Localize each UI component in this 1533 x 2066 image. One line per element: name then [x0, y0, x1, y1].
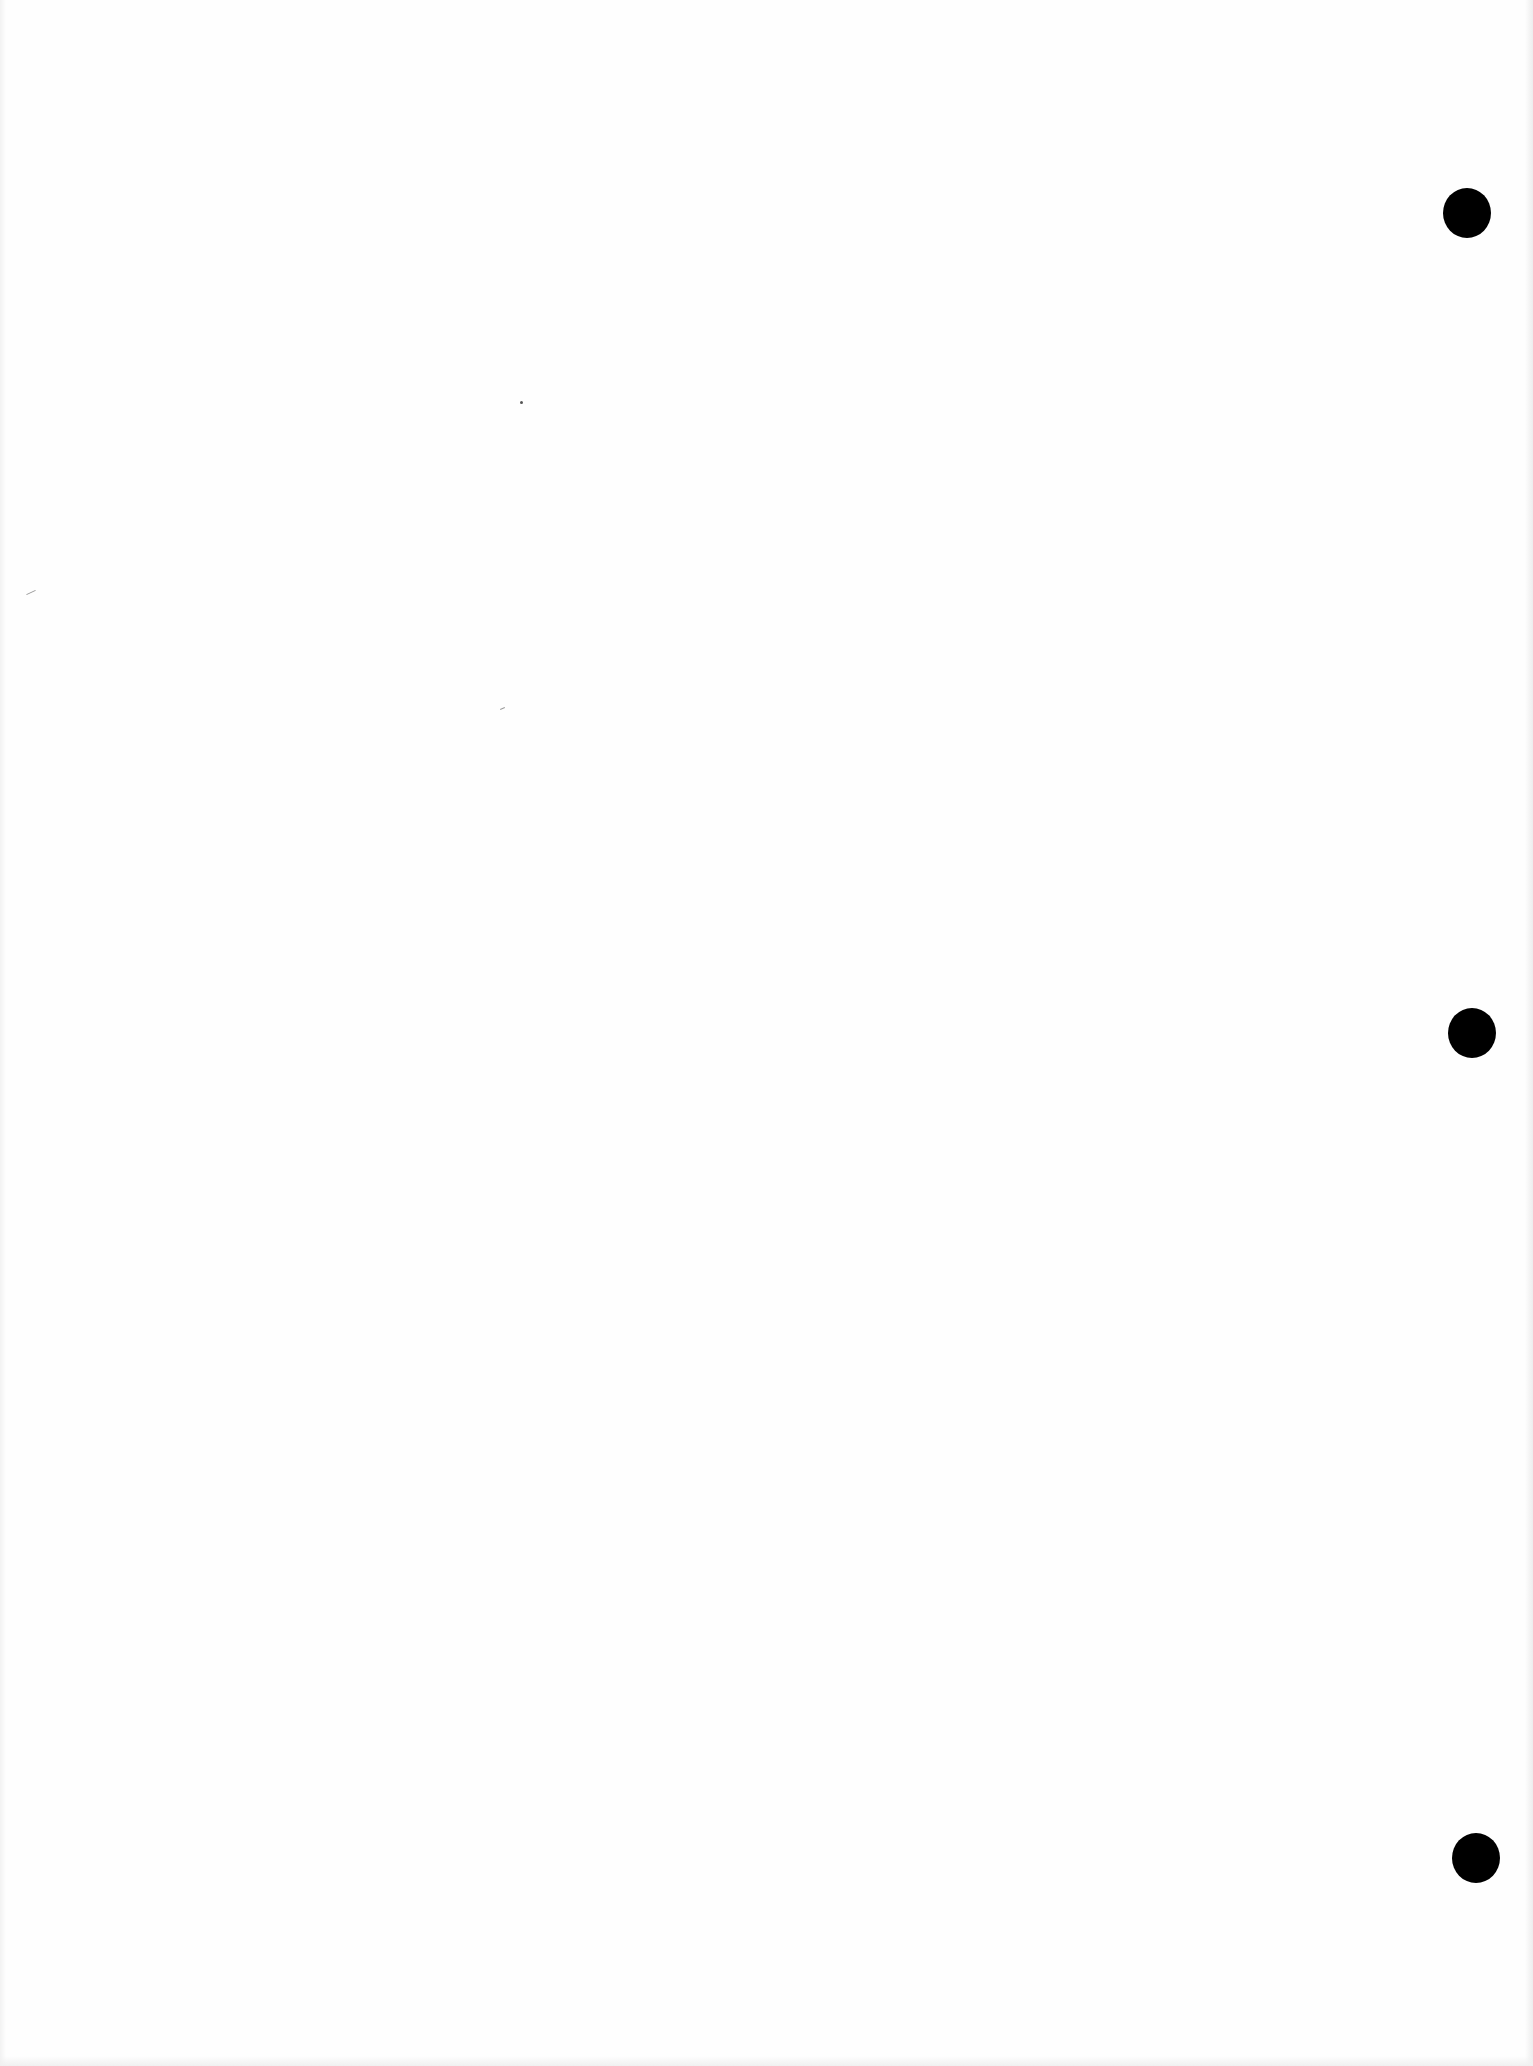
page-left-edge-shadow [0, 0, 6, 2066]
middle-punch-hole [1448, 1008, 1496, 1058]
top-punch-hole [1443, 188, 1491, 238]
bottom-punch-hole [1452, 1833, 1500, 1883]
scan-scratch [500, 707, 505, 710]
page-right-edge-shadow [1525, 0, 1533, 2066]
scan-scratch [26, 590, 35, 595]
scanned-page [0, 0, 1533, 2066]
scan-speck [520, 401, 523, 404]
page-bottom-edge-shadow [0, 2056, 1533, 2066]
